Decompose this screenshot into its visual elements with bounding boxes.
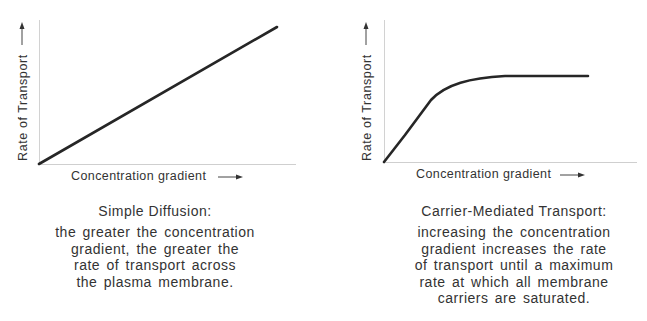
- right-ylabel-arrow-icon: [364, 22, 369, 45]
- left-caption-title: Simple Diffusion:: [30, 203, 280, 219]
- left-linear-curve: [39, 27, 277, 164]
- right-xlabel-arrow-icon: [560, 173, 585, 178]
- left-y-axis-label: Rate of Transport: [16, 54, 30, 161]
- caption-line: rate of transport across: [30, 257, 280, 274]
- caption-line: gradient, the greater the: [30, 241, 280, 258]
- caption-line: of transport until a maximum: [404, 257, 624, 274]
- left-x-axis-label: Concentration gradient: [71, 169, 206, 183]
- caption-line: rate at which all membrane: [404, 274, 624, 291]
- left-caption: Simple Diffusion: the greater the concen…: [30, 203, 280, 290]
- caption-line: gradient increases the rate: [404, 241, 624, 258]
- caption-line: the greater the concentration: [30, 224, 280, 241]
- right-x-axis-label: Concentration gradient: [416, 167, 551, 181]
- caption-line: carriers are saturated.: [404, 290, 624, 307]
- right-y-axis-label: Rate of Transport: [360, 54, 374, 161]
- right-caption-body: increasing the concentration gradient in…: [404, 224, 624, 307]
- right-saturation-curve: [384, 76, 588, 162]
- left-xlabel-arrow-icon: [218, 175, 243, 180]
- left-ylabel-arrow-icon: [20, 22, 25, 45]
- left-caption-body: the greater the concentration gradient, …: [30, 224, 280, 290]
- caption-line: the plasma membrane.: [30, 274, 280, 291]
- right-caption-title: Carrier-Mediated Transport:: [404, 203, 624, 219]
- right-caption: Carrier-Mediated Transport: increasing t…: [404, 203, 624, 307]
- caption-line: increasing the concentration: [404, 224, 624, 241]
